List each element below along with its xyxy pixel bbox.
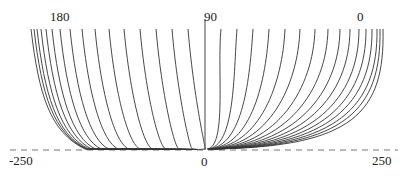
family-curve bbox=[109, 29, 196, 150]
label-bottom-center: 0 bbox=[201, 155, 208, 168]
family-curve bbox=[210, 29, 328, 149]
curve-family-diagram bbox=[0, 0, 405, 178]
family-curve bbox=[46, 29, 193, 150]
label-bottom-right: 250 bbox=[372, 154, 392, 167]
family-curve bbox=[211, 29, 350, 149]
family-curve bbox=[124, 29, 197, 150]
family-curve bbox=[34, 29, 192, 150]
curve-group bbox=[31, 29, 383, 150]
label-top-center: 90 bbox=[204, 10, 217, 23]
label-bottom-left: -250 bbox=[9, 154, 33, 167]
family-curve bbox=[208, 29, 253, 149]
family-curve bbox=[210, 29, 340, 149]
family-curve bbox=[188, 29, 206, 150]
family-curve bbox=[140, 29, 197, 150]
label-top-right: 0 bbox=[357, 10, 364, 23]
label-top-left: 180 bbox=[50, 10, 70, 23]
family-curve bbox=[82, 29, 195, 150]
family-curve bbox=[156, 29, 198, 150]
family-curve bbox=[208, 29, 269, 149]
family-curve bbox=[207, 29, 221, 149]
family-curve bbox=[209, 29, 300, 149]
family-curve bbox=[37, 29, 192, 150]
family-curve bbox=[95, 29, 196, 150]
